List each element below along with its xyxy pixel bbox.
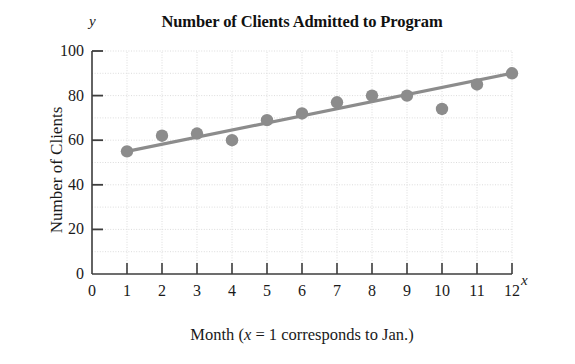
x-tick-label: 2 bbox=[158, 282, 166, 300]
x-tick-label: 1 bbox=[123, 282, 131, 300]
x-tick-label: 12 bbox=[504, 282, 520, 300]
x-tick-label: 5 bbox=[263, 282, 271, 300]
y-tick-label: 40 bbox=[26, 176, 84, 194]
chart-figure: Number of Clients Admitted to Program y … bbox=[0, 0, 575, 364]
y-tick-label: 20 bbox=[26, 220, 84, 238]
x-tick-label: 11 bbox=[469, 282, 484, 300]
x-tick-label: 4 bbox=[228, 282, 236, 300]
y-tick-label: 100 bbox=[26, 42, 84, 60]
x-tick-label: 8 bbox=[368, 282, 376, 300]
y-tick-label: 0 bbox=[26, 265, 84, 283]
x-tick-label: 10 bbox=[434, 282, 450, 300]
x-tick-label: 3 bbox=[193, 282, 201, 300]
x-tick-label: 0 bbox=[88, 282, 96, 300]
y-tick-label: 80 bbox=[26, 87, 84, 105]
trend-line bbox=[127, 73, 512, 151]
x-tick-label: 6 bbox=[298, 282, 306, 300]
x-tick-label: 7 bbox=[333, 282, 341, 300]
plot-area bbox=[0, 0, 575, 364]
y-tick-label: 60 bbox=[26, 131, 84, 149]
x-tick-label: 9 bbox=[403, 282, 411, 300]
